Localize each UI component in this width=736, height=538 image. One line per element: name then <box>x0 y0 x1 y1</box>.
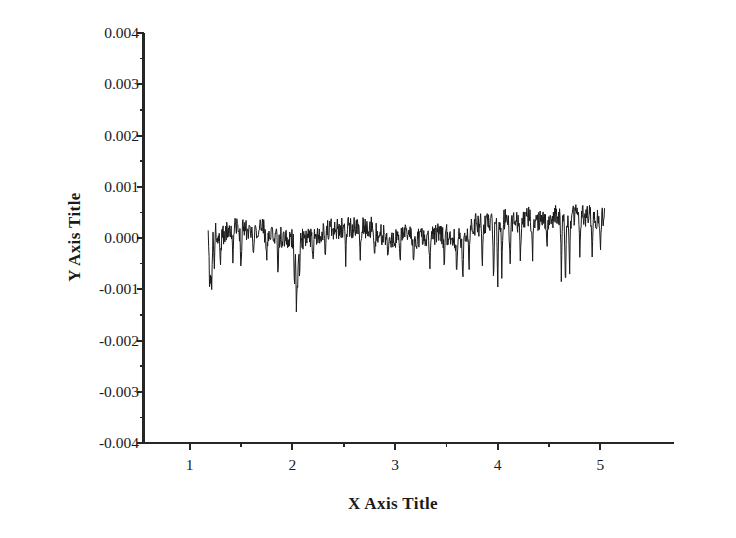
x-tick-label: 5 <box>597 456 605 474</box>
y-tick-label: -0.003 <box>99 383 139 401</box>
y-tick-label: -0.001 <box>99 280 139 298</box>
y-tick-label: -0.002 <box>99 332 139 350</box>
y-tick-label: 0.004 <box>104 24 139 42</box>
y-tick-label: 0.002 <box>104 127 139 145</box>
y-axis-title: Y Axis Title <box>65 97 87 377</box>
x-axis-title: X Axis Title <box>50 494 736 514</box>
data-series-0 <box>208 205 604 312</box>
tick-marks <box>137 33 601 450</box>
x-tick-label: 3 <box>391 456 399 474</box>
x-tick-label: 2 <box>289 456 297 474</box>
x-tick-label: 4 <box>494 456 502 474</box>
y-tick-label: 0.001 <box>104 178 139 196</box>
x-tick-label: 1 <box>186 456 194 474</box>
data-series-layer <box>208 205 604 312</box>
y-tick-label: 0.000 <box>104 229 139 247</box>
chart-figure: Y Axis Title X Axis Title 0.0040.0030.00… <box>0 0 736 538</box>
y-tick-label: 0.003 <box>104 75 139 93</box>
y-tick-label: -0.004 <box>99 434 139 452</box>
